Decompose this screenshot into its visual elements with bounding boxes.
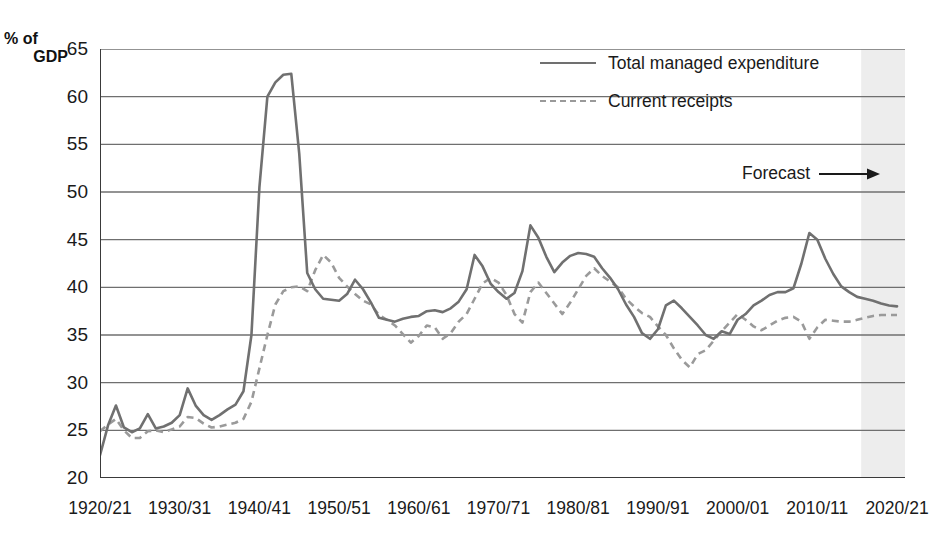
x-tick-1930-31: 1930/31	[148, 498, 211, 519]
chart-legend: Total managed expenditure Current receip…	[540, 44, 819, 120]
x-tick-1940-41: 1940/41	[228, 498, 291, 519]
y-tick-65: 65	[46, 38, 88, 60]
x-tick-1970-71: 1970/71	[467, 498, 530, 519]
y-tick-55: 55	[46, 133, 88, 155]
x-tick-1920-21: 1920/21	[68, 498, 131, 519]
legend-label-current-receipts: Current receipts	[608, 91, 733, 112]
chart-figure: % of GDP 20253035404550556065 1920/21193…	[0, 0, 935, 538]
y-tick-45: 45	[46, 229, 88, 251]
x-tick-1950-51: 1950/51	[307, 498, 370, 519]
x-tick-1990-91: 1990/91	[626, 498, 689, 519]
x-tick-1980-81: 1980/81	[547, 498, 610, 519]
right-arrow-icon	[819, 167, 881, 181]
series-line-current-receipts	[100, 255, 897, 438]
forecast-label: Forecast	[742, 163, 810, 184]
y-tick-20: 20	[46, 467, 88, 489]
y-tick-60: 60	[46, 86, 88, 108]
x-tick-2000-01: 2000/01	[706, 498, 769, 519]
y-tick-25: 25	[46, 419, 88, 441]
legend-swatch-solid-line	[540, 62, 596, 64]
y-tick-40: 40	[46, 276, 88, 298]
legend-swatch-dashed-line	[540, 100, 596, 102]
x-tick-2020-21: 2020/21	[865, 498, 928, 519]
x-tick-1960-61: 1960/61	[387, 498, 450, 519]
y-tick-35: 35	[46, 324, 88, 346]
x-tick-2010-11: 2010/11	[786, 498, 848, 519]
y-tick-30: 30	[46, 372, 88, 394]
legend-label-total-managed-expenditure: Total managed expenditure	[608, 53, 819, 74]
forecast-shaded-region	[861, 49, 905, 478]
y-tick-50: 50	[46, 181, 88, 203]
series-line-total-managed-expenditure	[100, 74, 897, 455]
legend-item-current-receipts: Current receipts	[540, 82, 819, 120]
forecast-annotation: Forecast	[742, 163, 881, 184]
legend-item-total-managed-expenditure: Total managed expenditure	[540, 44, 819, 82]
